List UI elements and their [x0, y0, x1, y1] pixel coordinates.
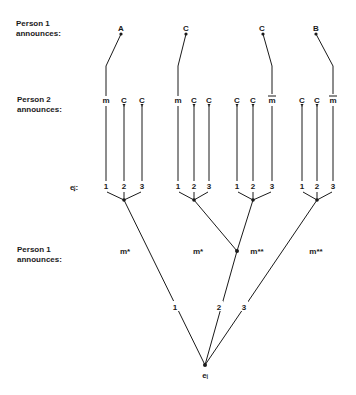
svg-text:1: 1: [104, 182, 109, 191]
root-label: eᵢ: [202, 371, 208, 380]
svg-text:2: 2: [192, 182, 197, 191]
svg-text:C: C: [250, 96, 256, 105]
branch-label-2: 2: [217, 303, 222, 312]
svg-text:C: C: [314, 96, 320, 105]
svg-text:Person 1: Person 1: [16, 19, 50, 28]
row-label-person2: Person 2 announces:: [17, 95, 62, 114]
root-node: [203, 363, 207, 367]
top-announce-C2: C: [259, 24, 265, 33]
edge-C2-to-mbar: [263, 34, 272, 94]
top-announce-C1: C: [183, 24, 189, 33]
ei-values: 1 2 3 1 2 3 1 2 3 1 2 3: [104, 182, 336, 191]
edge-C1-to-m: [178, 34, 186, 96]
svg-text:3: 3: [270, 182, 275, 191]
edge-group2-to-mid: [194, 200, 237, 251]
svg-text:Person 1: Person 1: [17, 245, 51, 254]
vertical-edges: [106, 106, 333, 181]
top-announce-B: B: [313, 24, 319, 33]
svg-text:C: C: [299, 96, 305, 105]
svg-text:C: C: [206, 96, 212, 105]
row-label-ei: eⱼ:: [70, 183, 78, 192]
svg-text:2: 2: [122, 182, 127, 191]
m-bar-label: m: [329, 96, 336, 105]
svg-text:announces:: announces:: [17, 105, 62, 114]
svg-text:1: 1: [235, 182, 240, 191]
group-1: m C C: [102, 96, 145, 105]
svg-text:1: 1: [300, 182, 305, 191]
svg-text:C: C: [191, 96, 197, 105]
m-bar-label: m: [268, 96, 275, 105]
bottom-announce-4: m**: [309, 247, 323, 256]
branch-label-3: 3: [242, 303, 247, 312]
svg-text:announces:: announces:: [17, 255, 62, 264]
branch-label-1: 1: [173, 303, 178, 312]
group-3: C C m: [234, 96, 276, 105]
svg-text:Person 2: Person 2: [17, 95, 51, 104]
svg-text:3: 3: [140, 182, 145, 191]
bottom-announce-2: m*: [193, 247, 204, 256]
bottom-announce-1: m*: [120, 247, 131, 256]
edge-B-to-mbar: [316, 34, 333, 94]
edge-A-to-m: [106, 34, 121, 96]
top-announce-A: A: [118, 24, 124, 33]
svg-text:C: C: [121, 96, 127, 105]
svg-text:1: 1: [176, 182, 181, 191]
svg-text:3: 3: [331, 182, 336, 191]
svg-text:announces:: announces:: [16, 29, 61, 38]
edge-root-1: [124, 200, 205, 365]
svg-text:m: m: [174, 96, 181, 105]
arrow-tips: [123, 104, 319, 107]
edge-group3-to-mid: [237, 200, 253, 251]
svg-text:2: 2: [251, 182, 256, 191]
bottom-announce-3: m**: [250, 247, 264, 256]
svg-text:3: 3: [207, 182, 212, 191]
junctions: [107, 192, 332, 202]
game-tree-diagram: Person 1 announces: Person 2 announces: …: [0, 0, 356, 395]
svg-text:C: C: [139, 96, 145, 105]
row-label-person1-top: Person 1 announces:: [16, 19, 61, 38]
svg-text:2: 2: [315, 182, 320, 191]
row-label-person1-bottom: Person 1 announces:: [17, 245, 62, 264]
svg-text:m: m: [102, 96, 109, 105]
edge-root-3: [205, 200, 317, 365]
svg-text:C: C: [234, 96, 240, 105]
group-4: C C m: [299, 96, 337, 105]
group-2: m C C: [174, 96, 212, 105]
